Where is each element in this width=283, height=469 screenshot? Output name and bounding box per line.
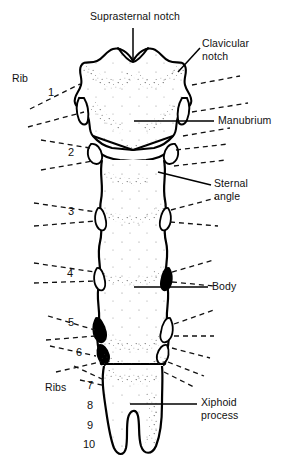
label-sternal-angle-line1: Sternal (214, 177, 248, 190)
rib-number-1: 1 (48, 86, 54, 98)
rib-number-5: 5 (68, 316, 74, 328)
label-clavicular-notch-line2: notch (202, 50, 228, 63)
rib-number-2: 2 (68, 146, 74, 158)
manubrium-shape (75, 48, 192, 152)
label-sternal-angle-line2: angle (214, 190, 240, 203)
rib-number-10: 10 (83, 438, 95, 450)
label-ribs: Ribs (45, 381, 66, 394)
rib-number-4: 4 (67, 267, 73, 279)
sternum-diagram (0, 0, 283, 469)
rib-number-8: 8 (87, 399, 93, 411)
rib-number-9: 9 (87, 419, 93, 431)
rib-number-7: 7 (87, 379, 93, 391)
label-clavicular-notch-line1: Clavicular (202, 37, 249, 50)
label-manubrium: Manubrium (218, 114, 271, 127)
label-body: Body (212, 280, 236, 293)
leader-sternal-angle (158, 172, 211, 185)
leader-clavicular-notch (178, 48, 200, 72)
label-xiphoid-process-line2: process (201, 409, 238, 422)
rib-number-3: 3 (68, 205, 74, 217)
xiphoid-process-shape (100, 364, 166, 468)
label-xiphoid-process-line1: Xiphoid (201, 396, 237, 409)
label-suprasternal-notch: Suprasternal notch (90, 10, 180, 23)
label-rib: Rib (12, 72, 28, 85)
rib-number-6: 6 (76, 346, 82, 358)
sternum-body-shape (93, 158, 173, 368)
